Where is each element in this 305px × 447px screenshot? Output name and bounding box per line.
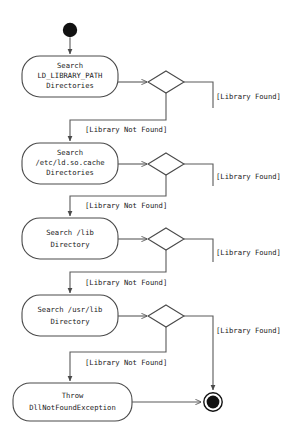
activity-node-search-lib bbox=[22, 218, 118, 259]
guard-found-3: [Library Found] bbox=[216, 248, 281, 257]
guard-found-4: [Library Found] bbox=[216, 326, 281, 335]
edge-decision-1-found bbox=[184, 82, 213, 108]
throw-line-2: DllNotFoundException bbox=[29, 403, 116, 412]
edge-decision-4-found bbox=[184, 316, 213, 390]
diagram-svg: Search LD_LIBRARY_PATH Directories [Libr… bbox=[0, 0, 305, 447]
decision-node-3 bbox=[148, 228, 184, 250]
guard-found-1: [Library Found] bbox=[216, 92, 281, 101]
activity-2-line-3: Directories bbox=[46, 168, 94, 177]
activity-4-line-1: Search /usr/lib bbox=[38, 305, 103, 314]
activity-1-line-1: Search bbox=[57, 61, 83, 70]
activity-node-search-usr-lib bbox=[22, 295, 118, 336]
activity-2-line-1: Search bbox=[57, 148, 83, 157]
guard-not-found-4: [Library Not Found] bbox=[85, 358, 167, 367]
guard-found-2: [Library Found] bbox=[216, 172, 281, 181]
decision-node-4 bbox=[148, 305, 184, 327]
activity-2-line-2: /etc/ld.so.cache bbox=[35, 158, 104, 167]
activity-1-line-2: LD_LIBRARY_PATH bbox=[38, 71, 103, 80]
guard-not-found-1: [Library Not Found] bbox=[85, 125, 167, 134]
end-node bbox=[207, 396, 220, 409]
throw-line-1: Throw bbox=[62, 391, 84, 400]
edge-decision-3-found bbox=[184, 239, 213, 262]
activity-3-line-2: Directory bbox=[51, 240, 91, 249]
activity-1-line-3: Directories bbox=[46, 81, 94, 90]
decision-node-1 bbox=[148, 71, 184, 93]
decision-node-2 bbox=[148, 153, 184, 175]
activity-3-line-1: Search /lib bbox=[46, 228, 94, 237]
guard-not-found-2: [Library Not Found] bbox=[85, 201, 167, 210]
guard-not-found-3: [Library Not Found] bbox=[85, 278, 167, 287]
edge-decision-2-found bbox=[184, 164, 213, 186]
start-node bbox=[63, 23, 77, 37]
activity-4-line-2: Directory bbox=[51, 317, 91, 326]
activity-diagram-canvas: Search LD_LIBRARY_PATH Directories [Libr… bbox=[0, 0, 305, 447]
